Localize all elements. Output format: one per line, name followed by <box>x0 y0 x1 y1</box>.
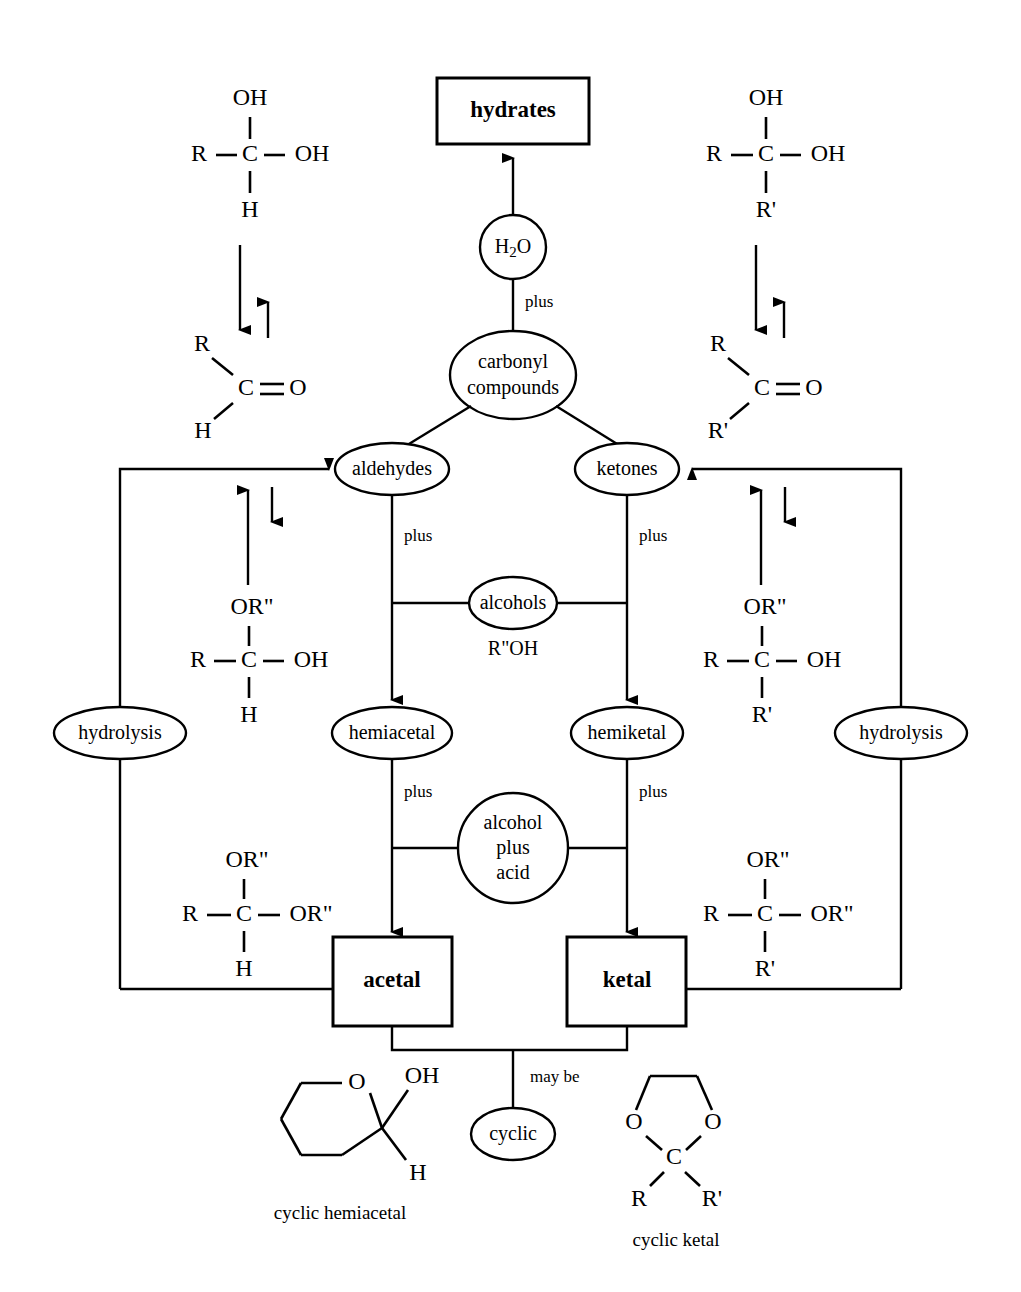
atom-hemiketal-top-or: OR" <box>743 593 786 619</box>
dioxolane-bond-o-c-right <box>686 1136 701 1150</box>
atom-ketcarbonyl-lower-rprime: R' <box>708 417 728 443</box>
node-aldehydes-label: aldehydes <box>352 457 432 480</box>
node-hydrolysis-right-label: hydrolysis <box>859 721 943 744</box>
ring-bond-lower-right <box>342 1128 382 1155</box>
edge-label-ketone-plus: plus <box>639 526 667 545</box>
diagram-canvas: hydrates H2O plus carbonyl compounds ald… <box>0 0 1021 1292</box>
atom-cyclic-ketal-o-right: O <box>704 1108 721 1134</box>
node-alcohols-formula: R"OH <box>488 637 538 659</box>
atom-hemiacetal-bottom-h: H <box>240 701 257 727</box>
bond-c-h <box>214 403 233 419</box>
node-carbonyl-line1: carbonyl <box>478 350 548 373</box>
atom-cyclic-ketal-center-c: C <box>666 1143 682 1169</box>
bond-r-c <box>212 358 233 375</box>
atom-cyclic-hemiacetal-oh: OH <box>405 1062 440 1088</box>
atom-carbonyl-lower-h: H <box>194 417 211 443</box>
atom-hydrate-top-oh: OH <box>233 84 268 110</box>
atom-ketal-right-or: OR" <box>810 900 853 926</box>
atom-hydrate-right-oh: OH <box>295 140 330 166</box>
atom-cyclic-hemiacetal-h: H <box>409 1159 426 1185</box>
bond-r-c <box>728 358 749 375</box>
edge-label-water-plus: plus <box>525 292 553 311</box>
atom-ketal-top-or: OR" <box>746 846 789 872</box>
atom-hydrate-center-c: C <box>242 140 258 166</box>
atom-ketal-center-c: C <box>757 900 773 926</box>
edge-carbonyl-to-ketones <box>556 406 622 447</box>
atom-carbonyl-center-c: C <box>238 374 254 400</box>
atom-carbonyl-right-o: O <box>289 374 306 400</box>
node-alcohols-label: alcohols <box>480 591 547 613</box>
node-ketones-label: ketones <box>596 457 657 479</box>
atom-acetal-left-r: R <box>182 900 198 926</box>
structure-cyclic-hemiacetal: O OH H cyclic hemiacetal <box>274 1062 440 1224</box>
node-hemiacetal-label: hemiacetal <box>349 721 436 743</box>
atom-hemiacetal-left-r: R <box>190 646 206 672</box>
dioxolane-bond-left <box>636 1076 650 1110</box>
node-acetal-label: acetal <box>363 967 420 992</box>
atom-kethydrate-right-oh: OH <box>811 140 846 166</box>
structure-aldehyde-hydrate: OH R C OH H <box>191 84 329 222</box>
bond-c-rprime <box>730 403 749 419</box>
atom-hemiacetal-right-oh: OH <box>294 646 329 672</box>
atom-acetal-right-or: OR" <box>289 900 332 926</box>
caption-cyclic-hemiacetal: cyclic hemiacetal <box>274 1202 406 1223</box>
edge-label-hemiketal-plus: plus <box>639 782 667 801</box>
atom-ketcarbonyl-upper-r: R <box>710 330 726 356</box>
atom-cyclic-hemiacetal-ring-o: O <box>348 1068 365 1094</box>
atom-cyclic-ketal-r: R <box>631 1185 647 1211</box>
node-acid-line1: alcohol <box>484 811 543 833</box>
structure-ketone-carbonyl: R C O R' <box>708 330 823 443</box>
atom-acetal-bottom-h: H <box>235 955 252 981</box>
node-ketal-label: ketal <box>603 967 652 992</box>
ring-bond-upper-right <box>370 1093 382 1128</box>
atom-hemiacetal-top-or: OR" <box>230 593 273 619</box>
node-hydrolysis-left-label: hydrolysis <box>78 721 162 744</box>
structure-hemiketal: OR" R C OH R' <box>703 593 841 727</box>
structure-ketone-hydrate: OH R C OH R' <box>706 84 845 222</box>
atom-hemiketal-bottom-rprime: R' <box>752 701 772 727</box>
edge-label-aldehyde-plus: plus <box>404 526 432 545</box>
node-acid-line2: plus <box>496 836 530 859</box>
atom-cyclic-ketal-o-left: O <box>625 1108 642 1134</box>
node-acid-line3: acid <box>496 861 529 883</box>
dioxolane-bond-right <box>697 1076 712 1110</box>
atom-acetal-top-or: OR" <box>225 846 268 872</box>
atom-kethydrate-top-oh: OH <box>749 84 784 110</box>
node-hemiketal-label: hemiketal <box>588 721 667 743</box>
edge-label-hemiacetal-plus: plus <box>404 782 432 801</box>
structure-cyclic-ketal: O O C R R' cyclic ketal <box>625 1076 722 1250</box>
ring-bond-lower-left <box>281 1119 301 1155</box>
bond-c-r <box>650 1172 664 1186</box>
atom-kethydrate-left-r: R <box>706 140 722 166</box>
bond-anomeric-oh <box>382 1090 408 1128</box>
atom-ketal-left-r: R <box>703 900 719 926</box>
reaction-diagram: hydrates H2O plus carbonyl compounds ald… <box>0 0 1021 1292</box>
atom-hemiketal-right-oh: OH <box>807 646 842 672</box>
atom-ketal-bottom-rprime: R' <box>755 955 775 981</box>
atom-kethydrate-bottom-rprime: R' <box>756 196 776 222</box>
atom-ketcarbonyl-center-c: C <box>754 374 770 400</box>
atom-hydrate-bottom-h: H <box>241 196 258 222</box>
bond-anomeric-h <box>382 1128 406 1160</box>
structure-acetal: OR" R C OR" H <box>182 846 333 981</box>
atom-hydrate-left-r: R <box>191 140 207 166</box>
edge-acetal-ketal-merge <box>392 1026 627 1050</box>
atom-acetal-center-c: C <box>236 900 252 926</box>
structure-ketal: OR" R C OR" R' <box>703 846 854 981</box>
atom-ketcarbonyl-right-o: O <box>805 374 822 400</box>
edge-label-may-be: may be <box>530 1067 580 1086</box>
dioxolane-bond-o-c-left <box>646 1136 662 1150</box>
node-hydrates-label: hydrates <box>470 97 556 122</box>
ring-bond-upper-left <box>281 1083 301 1119</box>
atom-cyclic-ketal-rprime: R' <box>702 1185 722 1211</box>
edge-carbonyl-to-aldehydes <box>404 406 471 447</box>
atom-hemiketal-left-r: R <box>703 646 719 672</box>
node-cyclic-label: cyclic <box>489 1122 537 1145</box>
node-carbonyl-line2: compounds <box>467 376 559 399</box>
structure-hemiacetal: OR" R C OH H <box>190 593 328 727</box>
atom-kethydrate-center-c: C <box>758 140 774 166</box>
structure-aldehyde-carbonyl: R C O H <box>194 330 307 443</box>
caption-cyclic-ketal: cyclic ketal <box>632 1229 719 1250</box>
atom-hemiacetal-center-c: C <box>241 646 257 672</box>
atom-carbonyl-upper-r: R <box>194 330 210 356</box>
